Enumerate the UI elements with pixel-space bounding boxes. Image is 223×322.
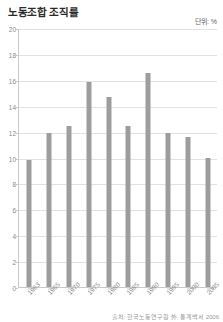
source-note: 출처: 한국노동연구원 外, 통계백서 2006 [112, 312, 219, 321]
bar[interactable] [66, 126, 71, 287]
bar[interactable] [186, 137, 191, 287]
y-tick-label: 14 [0, 103, 16, 110]
bar-slot [178, 29, 198, 287]
y-tick-label: 2 [0, 259, 16, 266]
bar[interactable] [86, 82, 91, 287]
bar-slot [99, 29, 119, 287]
bar[interactable] [126, 126, 131, 287]
bar-slot [39, 29, 59, 287]
bar[interactable] [46, 133, 51, 287]
y-tick-label: 6 [0, 207, 16, 214]
bar[interactable] [146, 73, 151, 287]
y-tick-label: 16 [0, 77, 16, 84]
bar[interactable] [166, 133, 171, 287]
y-tick-label: 18 [0, 51, 16, 58]
bar-slot [198, 29, 218, 287]
y-tick-label: 20 [0, 26, 16, 33]
plot-area [18, 29, 217, 288]
chart-container: 노동조합 조직률 단위: % 02468101214161820 1963196… [0, 0, 223, 322]
y-tick-label: 8 [0, 181, 16, 188]
page-title: 노동조합 조직률 [8, 4, 79, 19]
bar-slot [158, 29, 178, 287]
bar[interactable] [26, 160, 31, 287]
bar-slot [59, 29, 79, 287]
bar[interactable] [206, 158, 211, 288]
bar-slot [138, 29, 158, 287]
bar[interactable] [106, 97, 111, 287]
x-axis-labels: 1963196519701975198019851990199520002005 [18, 289, 217, 311]
bar-slot [79, 29, 99, 287]
y-tick-label: 4 [0, 233, 16, 240]
y-tick-label: 12 [0, 129, 16, 136]
y-tick-label: 0 [0, 285, 16, 292]
bar-slot [119, 29, 139, 287]
bar-series [19, 29, 217, 287]
y-tick-label: 10 [0, 155, 16, 162]
y-axis: 02468101214161820 [0, 29, 16, 288]
unit-label: 단위: % [195, 16, 217, 26]
bar-slot [19, 29, 39, 287]
